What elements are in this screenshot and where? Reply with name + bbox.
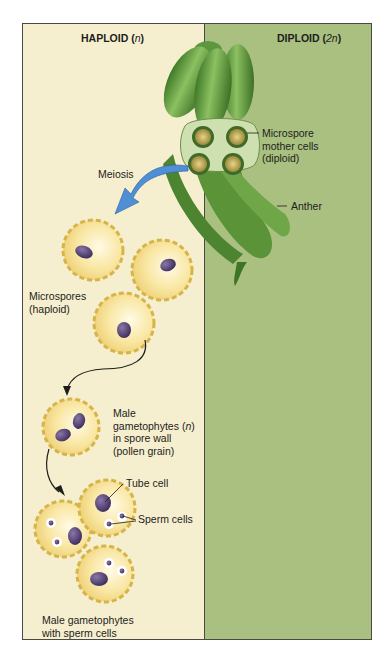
label-sperm-cells: Sperm cells: [138, 513, 193, 526]
label-male-gametophytes-in-wall: Male gametophytes (n) in spore wall (pol…: [113, 407, 195, 457]
pollen-development-diagram: HAPLOID (n) DIPLOID (2n) Microspore moth…: [0, 0, 388, 663]
label-microspores: Microspores (haploid): [29, 290, 86, 315]
label-male-gametophytes-sperm: Male gametophytes with sperm cells: [42, 614, 134, 639]
diagram-frame: HAPLOID (n) DIPLOID (2n) Microspore moth…: [22, 23, 372, 640]
microspore-1: [63, 220, 123, 280]
pollen-grain: [43, 399, 99, 455]
label-microspore-mother-cells: Microspore mother cells (diploid): [262, 127, 319, 165]
diploid-header: DIPLOID (2n): [277, 32, 341, 44]
label-meiosis: Meiosis: [98, 168, 134, 181]
haploid-header: HAPLOID (n): [81, 32, 144, 44]
illustration: [23, 24, 372, 640]
microspore-2: [132, 240, 192, 300]
label-tube-cell: Tube cell: [126, 477, 168, 490]
development-arrow-2: [47, 449, 59, 492]
label-anther: Anther: [291, 200, 322, 213]
gametophyte-3: [77, 546, 133, 602]
microspore-mother-cells: [181, 119, 260, 176]
